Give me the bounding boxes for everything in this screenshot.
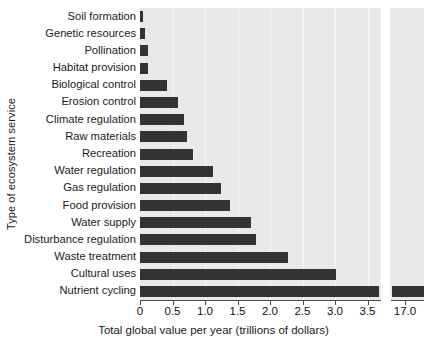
plot-area [140, 8, 424, 300]
bar [140, 97, 178, 108]
category-label: Pollination [12, 45, 136, 56]
category-label: Habitat provision [12, 62, 136, 73]
bar-continuation [392, 286, 424, 297]
bar [140, 80, 167, 91]
bar [140, 166, 213, 177]
category-label: Biological control [12, 79, 136, 90]
category-label: Food provision [12, 200, 136, 211]
gridline [303, 8, 304, 300]
category-label: Water supply [12, 217, 136, 228]
bar [140, 149, 193, 160]
bar [140, 252, 288, 263]
category-label: Genetic resources [12, 28, 136, 39]
x-tick-label: 17.0 [385, 305, 425, 317]
category-label: Erosion control [12, 96, 136, 107]
category-label: Waste treatment [12, 251, 136, 262]
category-label: Nutrient cycling [12, 285, 136, 296]
bar [140, 269, 336, 280]
gridline [368, 8, 369, 300]
gridline [335, 8, 336, 300]
bar-chart: Type of ecosystem service Soil formation… [0, 0, 427, 344]
bar [140, 217, 251, 228]
category-label: Soil formation [12, 11, 136, 22]
x-tick-label: 3.5 [348, 305, 388, 317]
category-label: Disturbance regulation [12, 234, 136, 245]
category-label: Raw materials [12, 131, 136, 142]
category-label: Cultural uses [12, 268, 136, 279]
bar [140, 28, 145, 39]
bar [140, 286, 379, 297]
axis-break-mark [381, 296, 391, 305]
axis-break-band [381, 8, 390, 300]
bar [140, 131, 187, 142]
category-label: Water regulation [12, 165, 136, 176]
category-label: Gas regulation [12, 182, 136, 193]
category-label-column: Soil formationGenetic resourcesPollinati… [12, 8, 136, 300]
bar [140, 11, 143, 22]
bar [140, 183, 221, 194]
bar [140, 200, 230, 211]
bar [140, 45, 148, 56]
bar [140, 234, 256, 245]
bar [140, 114, 184, 125]
x-axis-title: Total global value per year (trillions o… [0, 324, 427, 336]
bar [140, 63, 148, 74]
category-label: Climate regulation [12, 114, 136, 125]
category-label: Recreation [12, 148, 136, 159]
